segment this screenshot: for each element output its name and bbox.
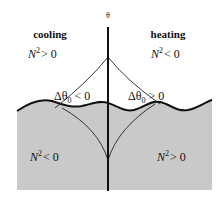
cooling-lower-condition: N2< 0 — [29, 149, 59, 164]
delta-theta-positive: Δθ0 > 0 — [128, 89, 164, 105]
axis-label-theta: θ — [106, 11, 110, 20]
cooling-upper-condition: N2> 0 — [27, 46, 57, 61]
delta-theta-negative: Δθ0 < 0 — [54, 89, 90, 105]
heating-label: heating — [151, 28, 186, 40]
heating-upper-condition: N2< 0 — [150, 46, 180, 61]
heating-lower-condition: N2> 0 — [156, 149, 186, 164]
cooling-heating-diagram: θ cooling N2> 0 Δθ0 < 0 N2< 0 heating N2… — [0, 0, 223, 204]
cooling-label: cooling — [33, 28, 67, 40]
